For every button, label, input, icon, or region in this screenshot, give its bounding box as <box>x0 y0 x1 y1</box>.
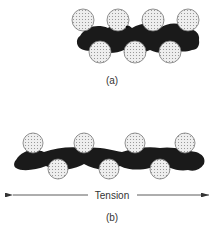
particle <box>175 133 195 153</box>
particle <box>23 133 43 153</box>
particle <box>99 159 119 179</box>
particle <box>177 9 199 31</box>
particle <box>124 41 146 63</box>
panel-b: Tension (b) <box>13 133 209 223</box>
panel-b-label: (b) <box>106 212 118 223</box>
panel-a-label: (a) <box>106 75 118 86</box>
particle <box>125 133 145 153</box>
bottom-particles-a <box>89 41 181 63</box>
tension-label: Tension <box>95 190 129 201</box>
particle <box>150 159 170 179</box>
panel-a: (a) <box>72 9 199 86</box>
particle <box>107 9 129 31</box>
particle <box>72 9 94 31</box>
diagram-canvas: (a) Tension (b) <box>0 0 222 228</box>
particle <box>89 41 111 63</box>
particle <box>142 9 164 31</box>
particle <box>48 159 68 179</box>
chain-dot <box>126 26 129 29</box>
particle <box>74 133 94 153</box>
particle <box>159 41 181 63</box>
